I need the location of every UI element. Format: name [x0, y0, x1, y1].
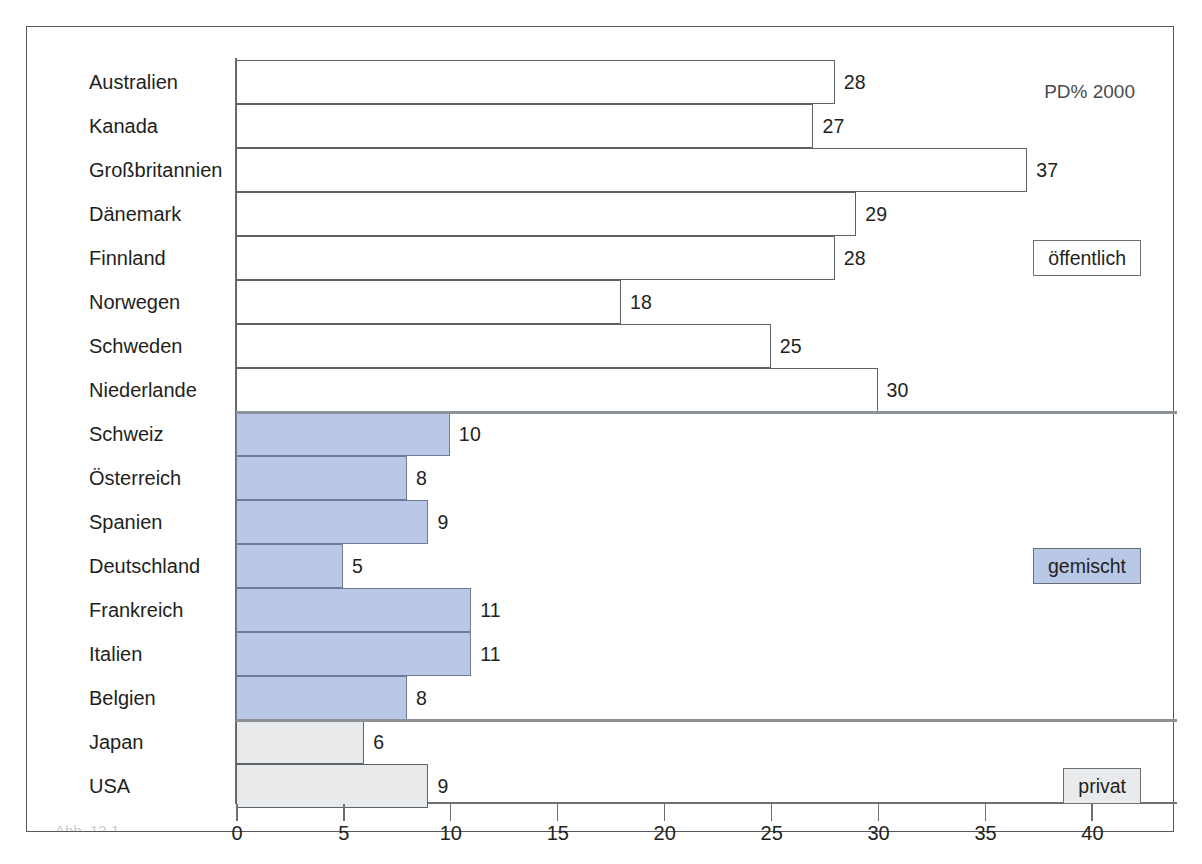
category-label: Schweden	[89, 324, 182, 368]
category-label: Australien	[89, 60, 178, 104]
bar	[236, 588, 471, 632]
bar	[236, 104, 813, 148]
category-label: Kanada	[89, 104, 158, 148]
bar-value-label: 11	[480, 643, 501, 666]
bar	[236, 632, 471, 676]
chart-frame: PD% 2000 AustralienKanadaGroßbritannienD…	[26, 26, 1174, 832]
bar-value-label: 30	[887, 379, 909, 402]
category-label: Italien	[89, 632, 142, 676]
bar	[236, 192, 856, 236]
bar-value-label: 5	[352, 555, 363, 578]
bar-value-label: 9	[437, 775, 448, 798]
category-label: Japan	[89, 720, 144, 764]
group-separator	[236, 719, 1177, 722]
bar-row: 28	[236, 60, 1177, 104]
bar	[236, 456, 407, 500]
category-label: Schweiz	[89, 412, 163, 456]
bar-value-label: 11	[480, 599, 501, 622]
bar-value-label: 6	[373, 731, 384, 754]
bar	[236, 676, 407, 720]
bar	[236, 280, 621, 324]
bar-value-label: 8	[416, 687, 427, 710]
bar	[236, 544, 343, 588]
bar	[236, 412, 450, 456]
legend-item-private: privat	[1063, 768, 1141, 804]
bar-row: 9	[236, 500, 1177, 544]
bar-chart-figure: PD% 2000 AustralienKanadaGroßbritannienD…	[0, 0, 1202, 864]
category-label: Norwegen	[89, 280, 180, 324]
bar-row: 30	[236, 368, 1177, 412]
bar-row: 11	[236, 588, 1177, 632]
category-label: Dänemark	[89, 192, 181, 236]
group-separator	[236, 411, 1177, 414]
bar-row: 18	[236, 280, 1177, 324]
legend-item-public: öffentlich	[1033, 240, 1141, 276]
category-label: Finnland	[89, 236, 166, 280]
bar-value-label: 28	[844, 71, 866, 94]
bar-row: 9	[236, 764, 1177, 808]
bar-value-label: 27	[822, 115, 844, 138]
category-label: Deutschland	[89, 544, 200, 588]
bar	[236, 368, 878, 412]
bar-value-label: 25	[780, 335, 802, 358]
category-label-column: AustralienKanadaGroßbritannienDänemarkFi…	[53, 60, 236, 802]
bar-row: 11	[236, 632, 1177, 676]
bar-row: 25	[236, 324, 1177, 368]
bar-value-label: 29	[865, 203, 887, 226]
category-label: Österreich	[89, 456, 181, 500]
bar-row: 8	[236, 456, 1177, 500]
bar	[236, 236, 835, 280]
legend-item-mixed: gemischt	[1033, 548, 1141, 584]
bar-value-label: 9	[437, 511, 448, 534]
bar	[236, 500, 428, 544]
bar	[236, 60, 835, 104]
bar-value-label: 28	[844, 247, 866, 270]
bar-row: 29	[236, 192, 1177, 236]
category-label: Spanien	[89, 500, 162, 544]
category-label: Großbritannien	[89, 148, 222, 192]
category-label: USA	[89, 764, 130, 808]
bar-row: 27	[236, 104, 1177, 148]
bar-value-label: 8	[416, 467, 427, 490]
category-label: Niederlande	[89, 368, 197, 412]
category-label: Belgien	[89, 676, 156, 720]
bar-row: 10	[236, 412, 1177, 456]
bar	[236, 148, 1027, 192]
category-label: Frankreich	[89, 588, 183, 632]
bar	[236, 324, 771, 368]
bar-value-label: 10	[459, 423, 481, 446]
bar	[236, 764, 428, 808]
bar-row: 6	[236, 720, 1177, 764]
bar	[236, 720, 364, 764]
bar-value-label: 37	[1036, 159, 1058, 182]
figure-caption: Abb. 12.1	[55, 818, 1195, 831]
bar-value-label: 18	[630, 291, 652, 314]
bar-row: 37	[236, 148, 1177, 192]
bar-row: 8	[236, 676, 1177, 720]
plot-area: 2827372928182530108951111869	[236, 60, 1177, 802]
